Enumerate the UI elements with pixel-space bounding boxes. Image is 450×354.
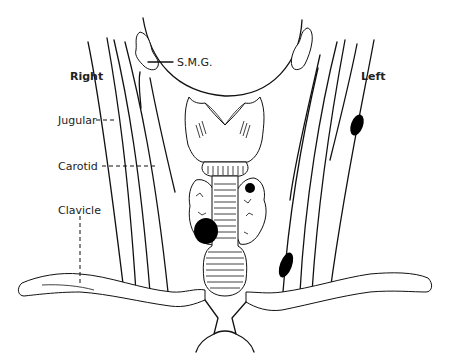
sternum-lower-left — [236, 334, 254, 352]
left-clavicle — [246, 273, 432, 311]
sternum-lower-right — [196, 334, 214, 352]
left-thyroid-lobe-mass — [245, 183, 255, 193]
label-smg: S.M.G. — [177, 56, 213, 69]
right-vessel-line-5 — [150, 78, 175, 192]
label-carotid: Carotid — [58, 160, 98, 173]
thyroid-cartilage — [185, 97, 264, 162]
left-vessel-line-3 — [300, 42, 337, 292]
label-right: Right — [70, 70, 103, 83]
right-clavicle — [18, 273, 205, 306]
left-submandibular-gland — [291, 28, 312, 70]
right-thyroid-lobe-mass — [194, 218, 218, 244]
label-left: Left — [361, 70, 386, 83]
cricoid-cartilage — [202, 162, 248, 176]
left-lateral-lower-mass — [276, 251, 296, 280]
manubrium — [205, 300, 246, 334]
right-submandibular-gland — [136, 32, 159, 70]
label-jugular: Jugular — [57, 114, 97, 127]
neck-anatomy-diagram: Right Left S.M.G. Jugular Carotid Clavic… — [0, 0, 450, 354]
mandible-outline — [143, 18, 302, 96]
label-clavicle: Clavicle — [58, 204, 101, 217]
left-lateral-upper-mass — [348, 113, 367, 138]
